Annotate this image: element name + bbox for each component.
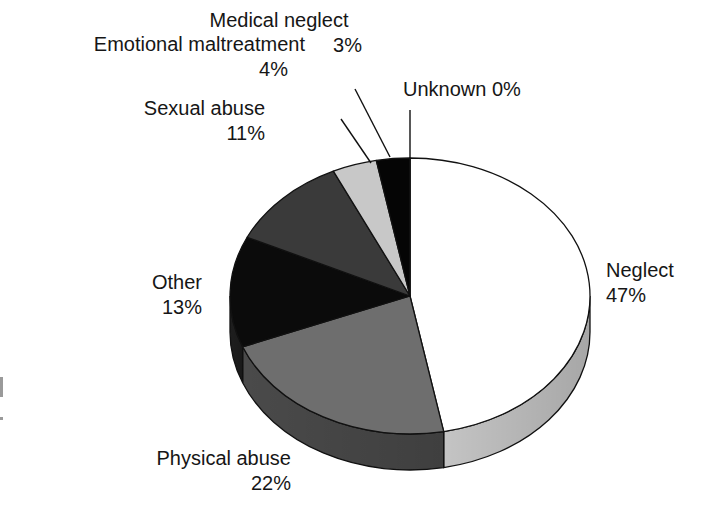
label-name: Medical neglect	[190, 8, 368, 33]
label-percent: 4%	[28, 57, 305, 82]
leader-lines	[341, 89, 410, 163]
label-name: Other	[130, 270, 202, 295]
label-unknown: Unknown 0%	[403, 77, 521, 102]
cropped-edge-mark	[0, 417, 3, 420]
label-neglect: Neglect 47%	[606, 258, 674, 308]
label-emotional-maltreatment: Emotional maltreatment 4%	[28, 32, 305, 82]
label-physical-abuse: Physical abuse 22%	[100, 446, 291, 496]
cropped-edge-mark	[0, 377, 3, 397]
label-percent: 22%	[100, 471, 291, 496]
label-other: Other 13%	[130, 270, 202, 320]
leader-line-emotional	[341, 119, 371, 163]
label-percent: 47%	[606, 283, 674, 308]
label-percent: 11%	[125, 121, 265, 146]
label-sexual-abuse: Sexual abuse 11%	[125, 96, 265, 146]
label-name: Physical abuse	[100, 446, 291, 471]
label-percent: 13%	[130, 295, 202, 320]
label-name: Neglect	[606, 258, 674, 283]
pie-slices	[230, 158, 590, 434]
label-name: Emotional maltreatment	[28, 32, 305, 57]
label-text: Unknown 0%	[403, 77, 521, 102]
label-name: Sexual abuse	[125, 96, 265, 121]
